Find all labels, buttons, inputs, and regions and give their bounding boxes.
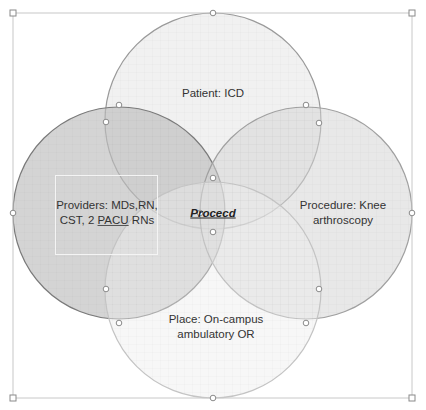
resize-handle[interactable] xyxy=(210,10,216,16)
label-patient-text: Patient: ICD xyxy=(182,87,244,99)
resize-handle[interactable] xyxy=(103,286,109,292)
label-center-procedure[interactable]: Procecd xyxy=(190,206,235,221)
resize-handle[interactable] xyxy=(116,320,122,326)
label-providers-line2: CST, 2 PACU RNs xyxy=(56,213,158,228)
resize-handle-corner[interactable] xyxy=(10,10,16,16)
label-patient[interactable]: Patient: ICD xyxy=(182,86,244,101)
providers-line2-suffix: RNs xyxy=(129,214,155,226)
providers-pacu-underlined: PACU xyxy=(98,214,129,226)
label-place-line1: Place: On-campus xyxy=(169,312,264,327)
resize-handle[interactable] xyxy=(116,102,122,108)
resize-handle[interactable] xyxy=(210,395,216,401)
resize-handle[interactable] xyxy=(210,175,216,181)
label-providers[interactable]: Providers: MDs,RN, CST, 2 PACU RNs xyxy=(56,198,158,228)
resize-handle[interactable] xyxy=(103,119,109,125)
resize-handle[interactable] xyxy=(316,120,322,126)
resize-handle[interactable] xyxy=(409,210,415,216)
label-procedure-line2: arthroscopy xyxy=(300,213,386,228)
label-place-line2: ambulatory OR xyxy=(169,327,264,342)
resize-handle[interactable] xyxy=(303,102,309,108)
resize-handle[interactable] xyxy=(303,320,309,326)
resize-handle[interactable] xyxy=(10,210,16,216)
resize-handle-corner[interactable] xyxy=(409,10,415,16)
label-center-text: Procecd xyxy=(190,207,235,219)
providers-line2-prefix: CST, 2 xyxy=(60,214,98,226)
label-providers-line1: Providers: MDs,RN, xyxy=(56,198,158,213)
resize-handle[interactable] xyxy=(210,229,216,235)
resize-handle-corner[interactable] xyxy=(409,395,415,401)
label-place[interactable]: Place: On-campus ambulatory OR xyxy=(169,312,264,342)
label-procedure-line1: Procedure: Knee xyxy=(300,198,386,213)
resize-handle-corner[interactable] xyxy=(10,395,16,401)
resize-handle[interactable] xyxy=(316,286,322,292)
label-procedure[interactable]: Procedure: Knee arthroscopy xyxy=(300,198,386,228)
